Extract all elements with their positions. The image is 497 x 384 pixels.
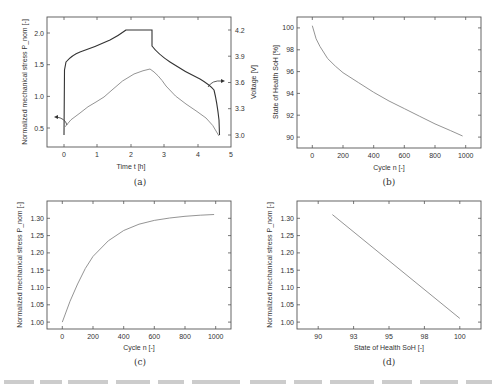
plot-frame [297, 201, 481, 329]
svg-text:90: 90 [314, 333, 322, 340]
x-ticks [64, 17, 198, 147]
svg-text:94: 94 [286, 90, 294, 97]
x-axis-label: Time t [h] [117, 163, 146, 171]
svg-text:1.0: 1.0 [34, 93, 44, 100]
svg-text:1.05: 1.05 [280, 301, 294, 308]
svg-text:1.20: 1.20 [280, 249, 294, 256]
caption-strip [0, 378, 497, 384]
svg-text:98: 98 [286, 46, 294, 53]
svg-text:1: 1 [95, 151, 99, 158]
svg-text:1.10: 1.10 [280, 284, 294, 291]
svg-text:200: 200 [337, 152, 349, 159]
svg-text:100: 100 [454, 333, 466, 340]
figure-caption-truncated [0, 378, 497, 384]
svg-text:90: 90 [286, 134, 294, 141]
chart-a: 0 1 2 3 4 5 0.5 1.0 1.5 2.0 3.0 3.3 3.6 [0, 0, 250, 190]
svg-text:1.5: 1.5 [34, 61, 44, 68]
svg-text:1.30: 1.30 [280, 215, 294, 222]
chart-c: 0 200 400 600 800 1000 1.00 1.05 1.10 1.… [0, 190, 250, 360]
svg-text:0: 0 [310, 152, 314, 159]
svg-text:96: 96 [286, 68, 294, 75]
svg-text:0.5: 0.5 [34, 125, 44, 132]
y-axis-label: Normalized mechanical stress P_nom [-] [266, 202, 274, 328]
svg-text:1.05: 1.05 [30, 301, 44, 308]
y-tick-labels: 1.00 1.05 1.10 1.15 1.20 1.25 1.30 [30, 215, 44, 326]
x-ticks [62, 201, 215, 329]
svg-text:1.20: 1.20 [30, 249, 44, 256]
y-tick-labels-left: 0.5 1.0 1.5 2.0 [34, 30, 44, 132]
svg-text:1.15: 1.15 [280, 267, 294, 274]
svg-text:1000: 1000 [458, 152, 474, 159]
x-ticks [312, 17, 465, 148]
svg-text:2.0: 2.0 [34, 30, 44, 37]
svg-text:3.9: 3.9 [235, 53, 245, 60]
svg-text:2: 2 [129, 151, 133, 158]
svg-text:200: 200 [87, 333, 99, 340]
x-tick-labels: 0 200 400 600 800 1000 [60, 333, 223, 340]
y-tick-labels: 1.00 1.05 1.10 1.15 1.20 1.25 1.30 [280, 215, 294, 326]
y-ticks [297, 218, 481, 322]
panel-caption: (b) [383, 177, 396, 187]
x-axis-label: Cycle n [-] [373, 164, 405, 172]
svg-text:92: 92 [286, 112, 294, 119]
svg-text:1.30: 1.30 [30, 215, 44, 222]
svg-text:1.00: 1.00 [280, 319, 294, 326]
svg-text:800: 800 [429, 152, 441, 159]
y-ticks [297, 28, 481, 137]
svg-text:98: 98 [421, 333, 429, 340]
svg-text:1.25: 1.25 [280, 232, 294, 239]
svg-text:93: 93 [350, 333, 358, 340]
panel-b: 0 200 400 600 800 1000 90 92 94 96 98 10… [250, 0, 497, 190]
svg-text:1.00: 1.00 [30, 319, 44, 326]
svg-text:5: 5 [229, 151, 233, 158]
plot-frame [47, 17, 231, 147]
soh-curve [312, 26, 462, 136]
svg-text:4.2: 4.2 [235, 27, 245, 34]
x-tick-labels: 90 93 95 98 100 [314, 333, 465, 340]
svg-text:0: 0 [60, 333, 64, 340]
panel-d: 90 93 95 98 100 1.00 1.05 1.10 1.15 1.20… [250, 190, 497, 360]
y-axis-label: State of Health SoH [%] [272, 45, 280, 119]
stress-vs-soh-line [332, 215, 459, 319]
svg-text:100: 100 [282, 24, 294, 31]
y-tick-labels-right: 3.0 3.3 3.6 3.9 4.2 [235, 27, 245, 139]
svg-text:400: 400 [118, 333, 130, 340]
svg-text:1.10: 1.10 [30, 284, 44, 291]
panel-caption: (d) [383, 357, 396, 367]
svg-text:95: 95 [385, 333, 393, 340]
svg-text:400: 400 [368, 152, 380, 159]
svg-text:0: 0 [62, 151, 66, 158]
y-tick-labels: 90 92 94 96 98 100 [282, 24, 294, 140]
voltage-curve [64, 30, 220, 135]
panel-c: 0 200 400 600 800 1000 1.00 1.05 1.10 1.… [0, 190, 250, 360]
panel-caption: (a) [134, 177, 146, 187]
stress-vs-cycle-curve [62, 215, 214, 323]
x-tick-labels: 0 1 2 3 4 5 [62, 151, 233, 158]
chart-b: 0 200 400 600 800 1000 90 92 94 96 98 10… [250, 0, 497, 190]
svg-text:1.25: 1.25 [30, 232, 44, 239]
svg-text:600: 600 [148, 333, 160, 340]
svg-text:800: 800 [179, 333, 191, 340]
caption-c-wrap: (c) [0, 350, 250, 370]
chart-d: 90 93 95 98 100 1.00 1.05 1.10 1.15 1.20… [250, 190, 497, 360]
svg-text:600: 600 [398, 152, 410, 159]
svg-text:3.6: 3.6 [235, 79, 245, 86]
y-axis-label: Normalized mechanical stress P_nom [-] [16, 202, 24, 328]
svg-text:3: 3 [162, 151, 166, 158]
svg-text:1000: 1000 [208, 333, 224, 340]
y-axis-label: Normalized mechanical stress P_nom [-] [21, 19, 29, 145]
panel-a: 0 1 2 3 4 5 0.5 1.0 1.5 2.0 3.0 3.3 3.6 [0, 0, 250, 190]
stress-curve [64, 69, 219, 136]
y-ticks [47, 218, 231, 322]
plot-frame [47, 201, 231, 329]
panel-caption: (c) [134, 357, 146, 367]
svg-text:3.0: 3.0 [235, 132, 245, 139]
plot-frame [297, 17, 481, 148]
caption-d-wrap: (d) [250, 350, 497, 370]
svg-text:1.15: 1.15 [30, 267, 44, 274]
svg-text:4: 4 [196, 151, 200, 158]
x-tick-labels: 0 200 400 600 800 1000 [310, 152, 473, 159]
svg-text:3.3: 3.3 [235, 105, 245, 112]
